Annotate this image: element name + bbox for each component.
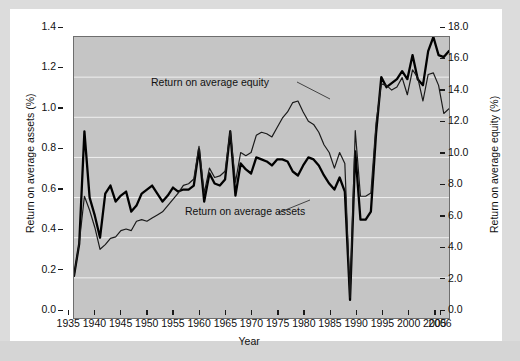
page-top-band [0,0,520,9]
page-bottom-band [0,341,520,361]
page-right-band [502,0,520,361]
chart-figure: 0.00.20.40.60.81.01.21.40.02.04.06.08.01… [0,0,520,361]
annotation-label-0: Return on average equity [151,76,269,88]
annotation-leaders [10,9,502,341]
annotation-label-1: Return on average assets [185,205,305,217]
page-left-band [0,0,10,361]
chart-card: 0.00.20.40.60.81.01.21.40.02.04.06.08.01… [10,9,502,341]
